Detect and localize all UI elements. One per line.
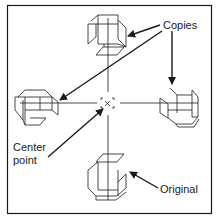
original-shape — [88, 154, 126, 200]
center-point-icon — [101, 98, 114, 108]
copy-shape-right — [160, 88, 199, 127]
copy-shape-left — [15, 90, 58, 125]
arrow-copies-to-left — [60, 31, 162, 100]
rotation-copies-diagram: Copies Center point Original — [0, 0, 216, 219]
copy-shape-top — [88, 15, 126, 55]
label-center-line2: point — [13, 154, 37, 166]
label-center-line1: Center — [13, 141, 46, 153]
leader-arrows — [48, 25, 172, 188]
arrow-copies-to-top — [128, 25, 160, 36]
label-original: Original — [160, 183, 198, 195]
arrow-center-point — [48, 109, 103, 157]
label-copies: Copies — [163, 19, 198, 31]
arrow-original — [130, 172, 158, 188]
